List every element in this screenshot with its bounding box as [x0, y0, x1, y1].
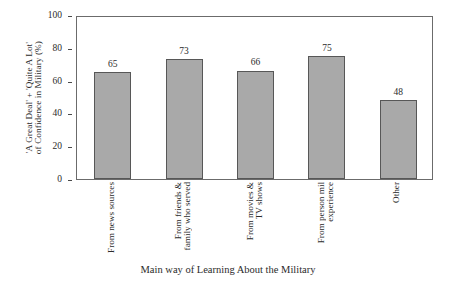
x-axis-category-label-line: experience — [326, 182, 335, 222]
y-axis-title-line-2: of Confidence in Military (%) — [34, 41, 43, 154]
y-axis-tick-label: 60 — [53, 77, 63, 87]
y-axis-tick-labels: 020406080100 — [50, 16, 72, 180]
y-axis-title: 'A Great Deal' + 'Quite A Lot' of Confid… — [18, 16, 50, 180]
x-axis-category-label: Other — [393, 182, 402, 262]
bar — [94, 72, 131, 179]
y-axis-tick-mark — [68, 16, 72, 17]
x-axis-category-label-line: From news sources — [107, 182, 116, 253]
bar-value-label: 65 — [108, 60, 118, 70]
y-axis-tick-mark — [68, 114, 72, 115]
x-axis-category-label-line: Other — [393, 182, 402, 203]
bars-layer: 6573667548 — [77, 17, 432, 179]
x-axis-category-label: From movies &TV shows — [245, 182, 263, 262]
y-axis-tick-mark — [68, 82, 72, 83]
bar-value-label: 48 — [394, 88, 404, 98]
x-axis-category-labels: From news sourcesFrom friends &family wh… — [76, 182, 433, 262]
x-axis-category-label: From friends &family who served — [174, 182, 192, 262]
y-axis-tick-label: 100 — [48, 11, 62, 21]
y-axis-tick-label: 20 — [53, 142, 63, 152]
bar — [237, 71, 274, 179]
y-axis-tick-mark — [68, 49, 72, 50]
x-axis-title: Main way of Learning About the Military — [0, 265, 456, 276]
bar — [166, 59, 203, 179]
bar-value-label: 66 — [251, 58, 261, 68]
x-axis-category-label: From news sources — [107, 182, 116, 262]
bar-value-label: 73 — [179, 47, 189, 57]
x-axis-category-label-line: family who served — [183, 182, 192, 250]
bar-value-label: 75 — [322, 44, 332, 54]
y-axis-tick-label: 0 — [57, 175, 62, 185]
bar — [380, 100, 417, 179]
y-axis-tick-label: 40 — [53, 110, 63, 120]
bar — [308, 56, 345, 179]
plot-area: 6573667548 — [76, 16, 433, 180]
x-axis-category-label-line: TV shows — [255, 182, 264, 219]
y-axis-tick-mark — [68, 147, 72, 148]
x-axis-category-label: From person milexperience — [317, 182, 335, 262]
bar-chart-figure: 'A Great Deal' + 'Quite A Lot' of Confid… — [0, 0, 456, 288]
y-axis-tick-mark — [68, 180, 72, 181]
y-axis-tick-label: 80 — [53, 44, 63, 54]
